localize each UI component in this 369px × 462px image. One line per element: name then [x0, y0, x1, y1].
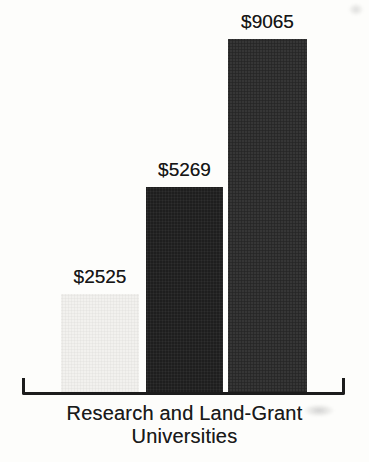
bar — [228, 39, 307, 392]
bar — [146, 187, 223, 392]
bar-group-2: $5269 — [146, 160, 223, 392]
x-axis-label: Research and Land-Grant Universities — [0, 402, 369, 448]
x-axis-label-line-1: Research and Land-Grant — [0, 402, 369, 425]
bar-value-label: $2525 — [74, 267, 127, 287]
x-axis-line — [22, 378, 345, 395]
bar-value-label: $5269 — [158, 160, 211, 180]
bar-group-1: $2525 — [61, 267, 139, 392]
scanned-bar-chart: $2525 $5269 $9065 Research and Land-Gran… — [0, 0, 369, 462]
bar-value-label: $9065 — [241, 12, 294, 32]
x-axis-label-line-2: Universities — [0, 425, 369, 448]
scan-smudge — [348, 3, 364, 16]
bar-group-3: $9065 — [228, 12, 307, 392]
